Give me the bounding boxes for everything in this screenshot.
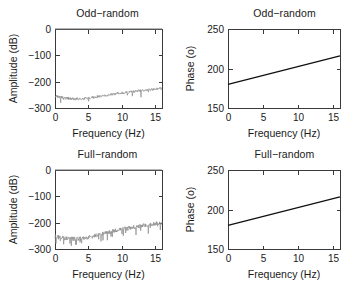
svg-text:Frequency (Hz): Frequency (Hz) [72, 127, 144, 139]
svg-text:250: 250 [207, 24, 224, 35]
svg-text:Amplitude (dB): Amplitude (dB) [7, 175, 19, 244]
svg-text:0: 0 [226, 112, 232, 123]
svg-text:5: 5 [261, 253, 267, 264]
plot-area: 0510150−100−200−300Frequency (Hz)Amplitu… [0, 141, 179, 282]
svg-text:Frequency (Hz): Frequency (Hz) [248, 127, 320, 139]
svg-text:5: 5 [261, 112, 267, 123]
plot-area: 0510150−100−200−300Frequency (Hz)Amplitu… [0, 0, 179, 141]
svg-text:−300: −300 [28, 103, 51, 114]
svg-text:0: 0 [45, 165, 51, 176]
svg-text:Frequency (Hz): Frequency (Hz) [248, 268, 320, 280]
panel-full-random-phase: Full−random 051015250200150Frequency (Hz… [180, 141, 359, 282]
plot-area: 051015250200150Frequency (Hz)Phase (o) [180, 141, 359, 282]
svg-text:−200: −200 [28, 218, 51, 229]
svg-text:15: 15 [328, 253, 340, 264]
svg-text:250: 250 [207, 165, 224, 176]
plot-area: 051015250200150Frequency (Hz)Phase (o) [180, 0, 359, 141]
svg-text:Phase (o): Phase (o) [184, 187, 196, 233]
svg-text:−200: −200 [28, 77, 51, 88]
svg-text:−300: −300 [28, 244, 51, 255]
svg-text:10: 10 [293, 112, 305, 123]
svg-text:−100: −100 [28, 191, 51, 202]
svg-text:150: 150 [207, 103, 224, 114]
svg-text:0: 0 [45, 24, 51, 35]
svg-text:Phase (o): Phase (o) [184, 46, 196, 92]
svg-text:15: 15 [150, 253, 162, 264]
svg-text:200: 200 [207, 64, 224, 75]
panel-odd-random-amplitude: Odd−random 0510150−100−200−300Frequency … [0, 0, 179, 141]
svg-text:Frequency (Hz): Frequency (Hz) [72, 268, 144, 280]
svg-text:Amplitude (dB): Amplitude (dB) [7, 34, 19, 103]
panel-full-random-amplitude: Full−random 0510150−100−200−300Frequency… [0, 141, 179, 282]
svg-text:10: 10 [117, 112, 129, 123]
panel-odd-random-phase: Odd−random 051015250200150Frequency (Hz)… [180, 0, 359, 141]
svg-text:5: 5 [86, 112, 92, 123]
svg-text:15: 15 [328, 112, 340, 123]
svg-text:200: 200 [207, 205, 224, 216]
svg-text:15: 15 [150, 112, 162, 123]
svg-text:0: 0 [226, 253, 232, 264]
svg-text:−100: −100 [28, 50, 51, 61]
svg-text:10: 10 [117, 253, 129, 264]
svg-text:0: 0 [53, 112, 59, 123]
svg-text:5: 5 [86, 253, 92, 264]
svg-text:150: 150 [207, 244, 224, 255]
svg-text:0: 0 [53, 253, 59, 264]
figure-canvas: Odd−random 0510150−100−200−300Frequency … [0, 0, 359, 282]
svg-text:10: 10 [293, 253, 305, 264]
